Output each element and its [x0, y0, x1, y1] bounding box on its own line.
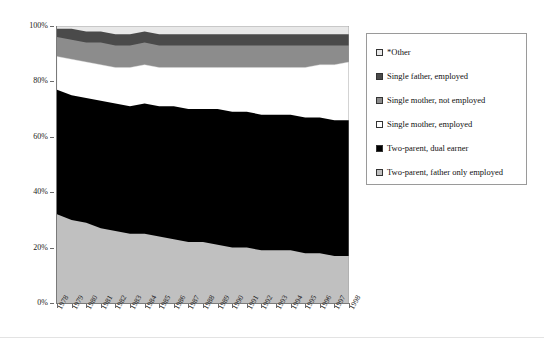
x-tick-mark	[115, 304, 116, 308]
legend-swatch-icon	[376, 97, 383, 104]
x-tick-mark	[247, 304, 248, 308]
x-tick-label: 1998	[348, 294, 362, 311]
legend-item[interactable]: *Other	[367, 40, 526, 64]
legend-label: Two-parent, father only employed	[387, 167, 503, 177]
legend-label: Single father, employed	[387, 71, 468, 81]
legend-label: Two-parent, dual earner	[387, 143, 468, 153]
y-tick-label: 100%	[29, 22, 48, 30]
x-tick-mark	[349, 304, 350, 308]
chart-legend: *OtherSingle father, employedSingle moth…	[366, 33, 527, 185]
legend-item[interactable]: Single father, employed	[367, 64, 526, 88]
x-tick-mark	[276, 304, 277, 308]
chart-figure: 0%20%40%60%80%100% 197819791980198119821…	[0, 0, 544, 352]
stacked-area-svg	[57, 26, 349, 303]
legend-label: Single mother, not employed	[387, 95, 485, 105]
x-tick-mark	[218, 304, 219, 308]
x-tick-mark	[334, 304, 335, 308]
y-tick-label: 80%	[33, 77, 48, 85]
x-tick-mark	[130, 304, 131, 308]
x-tick-mark	[203, 304, 204, 308]
x-tick-mark	[101, 304, 102, 308]
y-tick-mark	[50, 26, 54, 27]
y-tick-label: 20%	[33, 244, 48, 252]
legend-item[interactable]: Single mother, not employed	[367, 88, 526, 112]
x-tick-mark	[57, 304, 58, 308]
x-tick-mark	[232, 304, 233, 308]
y-tick-label: 60%	[33, 133, 48, 141]
legend-label: Single mother, employed	[387, 119, 472, 129]
y-tick-mark	[50, 192, 54, 193]
y-tick-mark	[50, 137, 54, 138]
legend-item[interactable]: Single mother, employed	[367, 112, 526, 136]
y-axis: 0%20%40%60%80%100%	[0, 0, 57, 310]
page-bottom-rule	[0, 337, 544, 338]
legend-item[interactable]: Two-parent, father only employed	[367, 160, 526, 184]
x-tick-mark	[305, 304, 306, 308]
legend-swatch-icon	[376, 145, 383, 152]
legend-item[interactable]: Two-parent, dual earner	[367, 136, 526, 160]
x-tick-mark	[145, 304, 146, 308]
y-tick-mark	[50, 248, 54, 249]
x-tick-mark	[188, 304, 189, 308]
y-tick-label: 0%	[37, 299, 48, 307]
x-axis-labels: 1978197919801981198219831984198519861987…	[0, 307, 360, 352]
y-tick-label: 40%	[33, 188, 48, 196]
legend-swatch-icon	[376, 121, 383, 128]
x-tick-mark	[261, 304, 262, 308]
y-tick-mark	[50, 303, 54, 304]
legend-label: *Other	[387, 47, 411, 57]
x-tick-mark	[159, 304, 160, 308]
x-tick-mark	[72, 304, 73, 308]
x-tick-mark	[86, 304, 87, 308]
legend-swatch-icon	[376, 49, 383, 56]
x-tick-mark	[291, 304, 292, 308]
x-tick-mark	[320, 304, 321, 308]
plot-area	[57, 26, 349, 303]
x-tick-mark	[174, 304, 175, 308]
legend-swatch-icon	[376, 169, 383, 176]
y-tick-mark	[50, 81, 54, 82]
legend-swatch-icon	[376, 73, 383, 80]
